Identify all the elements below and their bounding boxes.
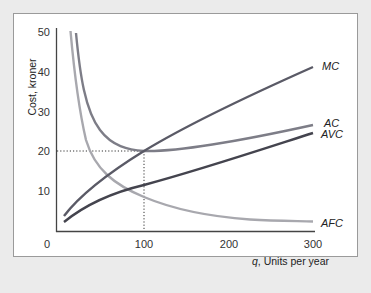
x-tick-200: 200 (220, 238, 238, 250)
y-tick-10: 10 (38, 185, 50, 197)
x-tick-0: 0 (44, 238, 50, 250)
mc-label: MC (322, 60, 339, 72)
x-tick-labels: 0 100 200 300 (44, 238, 322, 250)
cost-curves-chart: 50 40 30 20 10 0 100 200 300 Cost, krone… (0, 0, 371, 293)
y-tick-40: 40 (38, 66, 50, 78)
y-tick-labels: 50 40 30 20 10 (38, 26, 50, 197)
avc-label: AVC (320, 128, 343, 140)
ac-curve (76, 33, 313, 151)
x-axis-title-rest: , Units per year (258, 255, 330, 267)
x-tick-300: 300 (304, 238, 322, 250)
x-tick-100: 100 (135, 238, 153, 250)
y-tick-30: 30 (38, 106, 50, 118)
afc-label: AFC (320, 217, 343, 229)
afc-curve (71, 31, 314, 222)
y-tick-20: 20 (38, 145, 50, 157)
y-axis-title: Cost, kroner (26, 58, 38, 116)
y-tick-50: 50 (38, 26, 50, 38)
mc-curve (64, 67, 313, 216)
x-axis-title: q, Units per year (252, 255, 330, 267)
avc-curve (64, 133, 313, 222)
